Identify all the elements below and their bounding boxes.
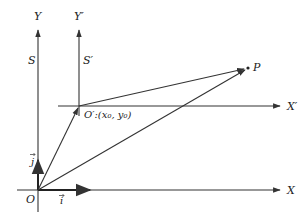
vector-o-to-oprime bbox=[38, 108, 78, 190]
vector-o-to-p bbox=[38, 70, 245, 190]
y-axis-label: Y bbox=[34, 10, 43, 23]
frame-s-prime-label: S′ bbox=[83, 54, 94, 67]
unit-vector-i-label: i bbox=[59, 194, 64, 206]
reference-frames-diagram: Y Y′ S S′ X′ X P O O′:(x₀, y₀) j i bbox=[0, 0, 305, 221]
frame-s-label: S bbox=[28, 54, 36, 67]
origin-o-prime-label: O′:(x₀, y₀) bbox=[84, 109, 131, 120]
vector-oprime-to-p bbox=[79, 69, 244, 106]
y-prime-axis-label: Y′ bbox=[74, 10, 84, 23]
unit-vector-j-label: j bbox=[29, 153, 35, 167]
origin-o-label: O bbox=[26, 193, 35, 206]
point-p-label: P bbox=[252, 61, 261, 74]
x-axis-label: X bbox=[286, 184, 296, 197]
x-prime-axis-label: X′ bbox=[286, 100, 298, 113]
point-p bbox=[246, 66, 249, 69]
svg-text:j: j bbox=[29, 156, 34, 167]
